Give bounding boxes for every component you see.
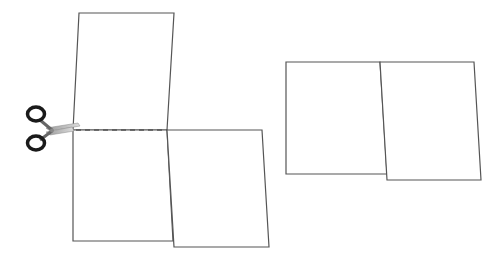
lower-left-panel (73, 130, 173, 241)
upper-panel (73, 13, 174, 130)
scissors-icon (28, 107, 81, 150)
diagram-svg (0, 0, 504, 256)
diagram-canvas: Paper folding/cutting puzzle: an unfolde… (0, 0, 504, 256)
left-figure (73, 13, 269, 247)
right-figure (286, 62, 481, 180)
result-right-panel (380, 62, 481, 180)
lower-right-panel (167, 130, 269, 247)
result-left-panel (286, 62, 387, 174)
